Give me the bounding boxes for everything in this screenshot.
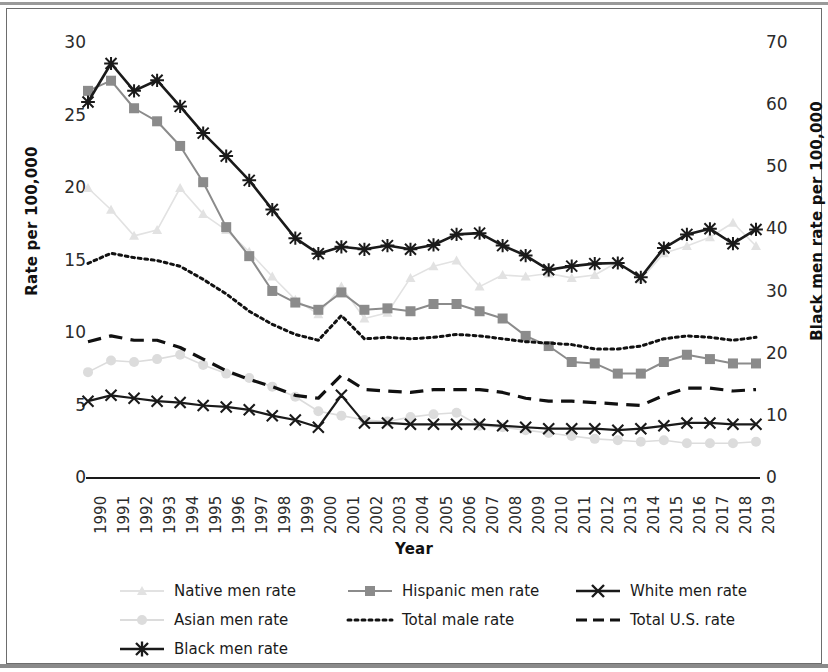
data-point-marker [244,251,254,261]
data-point-marker [83,367,93,377]
data-point-marker [705,438,715,448]
data-point-marker [152,225,162,234]
legend-item[interactable]: Hispanic men rate [346,582,574,600]
legend-swatch [346,582,394,600]
plot-area [0,0,828,672]
legend-item[interactable]: Black men rate [118,640,346,658]
series-white-men-rate [83,390,762,436]
data-point-marker [129,103,139,113]
data-point-marker [613,435,623,445]
data-point-marker [358,243,372,256]
data-point-marker [336,411,346,421]
data-point-marker [311,247,325,260]
data-point-marker [659,435,669,445]
data-point-marker [267,286,277,296]
data-point-marker [452,408,462,418]
legend-swatch-icon [574,611,622,629]
data-point-marker [336,287,346,297]
data-point-marker [429,409,439,419]
series-line [88,253,756,349]
data-point-marker [590,434,600,444]
data-point-marker [521,331,531,341]
data-point-marker [405,306,415,316]
data-point-marker [751,358,761,368]
data-point-marker [634,271,648,284]
data-point-marker [657,241,671,254]
data-point-marker [565,259,579,272]
data-point-marker [498,314,508,324]
series-line [88,64,756,278]
legend-swatch [574,611,622,629]
data-point-marker [175,350,185,360]
data-point-marker [127,84,141,97]
data-point-marker [313,422,324,433]
data-point-marker [427,238,441,251]
legend-swatch-icon [118,640,166,658]
data-point-marker [288,232,302,245]
data-point-marker [590,358,600,368]
chart-figure: Rate per 100,000 Black men rate per 100,… [0,0,828,672]
data-point-marker [106,76,116,86]
legend-item[interactable]: Total male rate [346,611,574,629]
legend-item[interactable]: Asian men rate [118,611,346,629]
data-point-marker [611,256,625,269]
data-point-marker [196,127,210,140]
data-point-marker [405,273,415,282]
data-point-marker [173,100,187,113]
data-point-marker [473,227,487,240]
legend-swatch [346,611,394,629]
data-point-marker [680,228,694,241]
data-point-marker [726,237,740,250]
data-point-marker [381,239,395,252]
legend-label: Hispanic men rate [402,582,539,600]
data-point-marker [452,299,462,309]
data-point-marker [265,203,279,216]
data-point-marker [636,369,646,379]
legend-label: Total U.S. rate [630,611,735,629]
data-point-marker [452,256,462,265]
series-total-u-s-rate [88,336,756,406]
data-point-marker [335,240,349,253]
data-point-marker [83,183,93,192]
data-point-marker [590,270,600,279]
data-point-marker [221,222,231,232]
legend-item[interactable]: Native men rate [118,582,346,600]
data-point-marker [313,305,323,315]
data-point-marker [751,437,761,447]
legend-item[interactable]: White men rate [574,582,778,600]
legend-label: Asian men rate [174,611,288,629]
legend-swatch-icon [118,611,166,629]
legend-label: White men rate [630,582,747,600]
data-point-marker [429,299,439,309]
data-point-marker [198,360,208,370]
legend-swatch-icon [574,582,622,600]
data-point-marker [519,249,533,262]
data-point-marker [175,183,185,192]
data-point-marker [749,223,763,236]
legend-label: Native men rate [174,582,296,600]
series-line [88,81,756,374]
legend-swatch [118,611,166,629]
legend-swatch-icon [118,582,166,600]
chart-legend: Native men rateHispanic men rateWhite me… [118,576,778,663]
data-point-marker [728,218,738,227]
data-point-marker [81,95,95,108]
legend-swatch [118,640,166,658]
data-point-marker [728,438,738,448]
data-point-marker [475,306,485,316]
legend-swatch-icon [346,611,394,629]
data-point-marker [150,74,164,87]
data-point-marker [359,305,369,315]
data-point-marker [613,369,623,379]
legend-swatch [574,582,622,600]
legend-label: Black men rate [174,640,288,658]
legend-label: Total male rate [402,611,514,629]
legend-swatch-icon [346,582,394,600]
data-point-marker [242,174,256,187]
data-point-marker [567,357,577,367]
data-point-marker [728,358,738,368]
data-point-marker [542,263,556,276]
legend-item[interactable]: Total U.S. rate [574,611,778,629]
data-point-marker [175,141,185,151]
data-point-marker [636,437,646,447]
